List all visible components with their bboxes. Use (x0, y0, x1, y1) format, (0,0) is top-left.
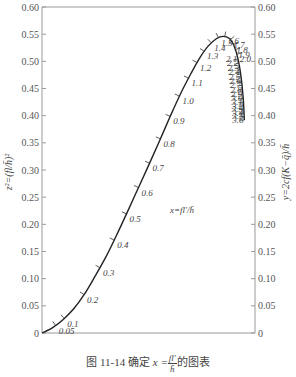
curve-ticks: 0.050.10.20.30.40.50.60.70.80.91.01.11.2… (53, 32, 252, 336)
right-tick-label: 0.15 (258, 246, 276, 257)
caption-suffix: 的图表 (177, 356, 210, 368)
left-tick-label: 0.15 (22, 246, 40, 257)
curve-tick-label: 1.1 (191, 78, 202, 88)
left-tick-label: 0.50 (22, 56, 40, 67)
plot-frame (42, 7, 255, 333)
right-axis-title: y=2cf(K−q̄)/h̄ (280, 144, 292, 201)
right-tick-label: 0.50 (258, 56, 276, 67)
curve (42, 36, 244, 333)
right-tick-label: 0.55 (258, 29, 276, 40)
left-tick-label: 0.20 (22, 219, 40, 230)
chart: 00.050.100.150.200.250.300.350.400.450.5… (0, 0, 296, 350)
curve-tick-label: 0.4 (117, 240, 129, 250)
left-tick-label: 0.45 (22, 83, 40, 94)
right-tick-label: 0.10 (258, 273, 276, 284)
caption-fraction: fl'h̄ (168, 353, 177, 374)
right-tick-label: 0 (258, 328, 263, 339)
curve-tick-label: 0.1 (67, 319, 78, 329)
right-tick-label: 0.20 (258, 219, 276, 230)
figure-caption: 图 11-14 确定 x =fl'h̄的图表 (0, 353, 296, 374)
curve-tick-label: 2.0 (240, 54, 252, 64)
curve-tick-label: 1.2 (200, 63, 212, 73)
right-tick-label: 0.30 (258, 165, 276, 176)
left-tick-label: 0.35 (22, 137, 40, 148)
right-tick-label: 0.25 (258, 192, 276, 203)
left-tick-label: 0.60 (22, 2, 40, 13)
curve-tick-label: 0.5 (129, 214, 141, 224)
curve-tick-label: 0.7 (153, 163, 165, 173)
left-tick-label: 0.05 (22, 300, 40, 311)
left-tick-label: 0.10 (22, 273, 40, 284)
left-tick-label: 0.55 (22, 29, 40, 40)
curve-tick-label: 3.6 (231, 115, 244, 125)
left-axis-title: z²=(fl/h̄)² (3, 153, 15, 192)
left-tick-label: 0.30 (22, 165, 40, 176)
right-tick-label: 0.05 (258, 300, 276, 311)
caption-prefix: 图 11-14 确定 (86, 356, 153, 368)
caption-denominator: h̄ (168, 364, 177, 374)
left-tick-label: 0.40 (22, 110, 40, 121)
curve-label: x=fl'/h̄ (169, 205, 194, 215)
curve-tick-label: 0.8 (163, 139, 175, 149)
curve-tick-label: 0.3 (103, 268, 115, 278)
right-tick-label: 0.35 (258, 137, 276, 148)
right-tick-label: 0.60 (258, 2, 276, 13)
curve-tick-label: 0.6 (142, 188, 154, 198)
left-tick-label: 0 (34, 328, 39, 339)
curve-tick-label: 1.0 (182, 96, 194, 106)
curve-tick-label: 0.2 (87, 295, 99, 305)
left-tick-label: 0.25 (22, 192, 40, 203)
right-tick-label: 0.45 (258, 83, 276, 94)
right-tick-label: 0.40 (258, 110, 276, 121)
caption-var: x = (153, 356, 168, 368)
caption-numerator: fl' (168, 353, 177, 364)
curve-tick-label: 0.9 (173, 116, 185, 126)
